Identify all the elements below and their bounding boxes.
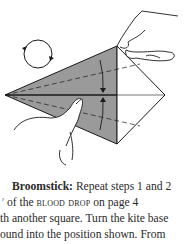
instruction-line-3: th another square. Turn the kite base bbox=[0, 211, 168, 227]
instruction-line-4: ound into the position shown. From bbox=[0, 227, 166, 243]
instruction-line-1: Broomstick: Repeat steps 1 and 2 bbox=[12, 179, 171, 195]
hand-upper-right bbox=[117, 11, 178, 61]
instruction-line-2: ’ of the blood drop on page 4 bbox=[1, 195, 138, 211]
rotate-arrows-icon bbox=[22, 40, 54, 68]
origami-diagram bbox=[0, 0, 192, 170]
model-name-reference: blood drop bbox=[37, 196, 91, 209]
step-title: Broomstick: bbox=[12, 180, 73, 193]
